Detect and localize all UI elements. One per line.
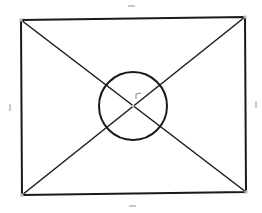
corner-handle-top-right[interactable] (244, 16, 247, 19)
corner-handle-bottom-left[interactable] (21, 194, 24, 197)
angle-marker-icon (136, 93, 141, 99)
center-point (132, 105, 135, 108)
corner-handle-bottom-right[interactable] (245, 191, 248, 194)
rectangle-with-diagonals-and-circle-diagram (0, 0, 262, 213)
corner-handle-top-left[interactable] (20, 19, 23, 22)
diagram-canvas (0, 0, 262, 213)
